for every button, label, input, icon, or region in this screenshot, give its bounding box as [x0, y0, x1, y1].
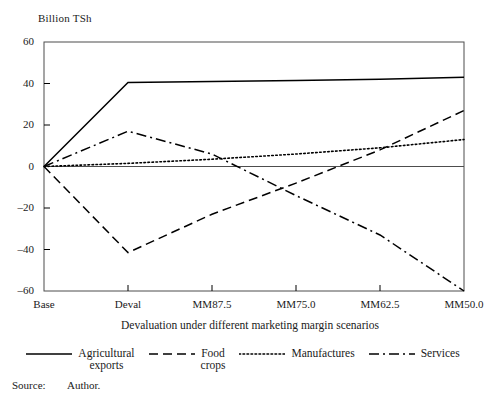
legend-swatch-dash-dot-icon — [369, 348, 415, 360]
series-line-1 — [44, 110, 464, 252]
x-tick-label: Base — [4, 299, 84, 310]
legend-label: Food crops — [201, 347, 226, 371]
source-value: Author. — [67, 379, 100, 391]
source-label: Source: — [12, 379, 46, 391]
x-tick-label: MM87.5 — [172, 299, 252, 310]
y-tick-label: 0 — [0, 161, 34, 172]
legend-label: Services — [421, 347, 460, 359]
legend-item: Services — [369, 347, 460, 360]
y-tick-label: 40 — [0, 78, 34, 89]
x-tick-label: MM75.0 — [256, 299, 336, 310]
x-axis-caption: Devaluation under different marketing ma… — [0, 319, 500, 331]
legend-swatch-solid-icon — [26, 348, 72, 360]
line-chart-plot — [0, 0, 500, 404]
y-tick-label: –60 — [0, 285, 34, 296]
legend-swatch-dashed-icon — [149, 348, 195, 360]
series-line-3 — [44, 131, 464, 291]
y-tick-label: –20 — [0, 202, 34, 213]
legend-item: Food crops — [149, 347, 226, 371]
series-line-2 — [44, 140, 464, 167]
y-tick-label: –40 — [0, 244, 34, 255]
chart-legend: Agricultural exportsFood cropsManufactur… — [0, 347, 500, 371]
legend-label: Manufactures — [291, 347, 354, 359]
x-tick-label: MM62.5 — [340, 299, 420, 310]
legend-item: Manufactures — [239, 347, 354, 360]
legend-swatch-dotted-icon — [239, 348, 285, 360]
x-tick-label: Deval — [88, 299, 168, 310]
legend-label: Agricultural exports — [78, 347, 134, 371]
x-tick-label: MM50.0 — [424, 299, 500, 310]
series-line-0 — [44, 77, 464, 166]
y-tick-label: 20 — [0, 119, 34, 130]
chart-figure: Billion TSh 6040200–20–40–60 BaseDevalMM… — [0, 0, 500, 404]
legend-item: Agricultural exports — [26, 347, 134, 371]
y-tick-label: 60 — [0, 36, 34, 47]
